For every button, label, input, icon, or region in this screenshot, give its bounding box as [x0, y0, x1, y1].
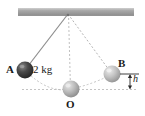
height-arrow-up: [128, 74, 132, 78]
ball-a-highlight: [20, 65, 25, 69]
string-pivot-to-o: [69, 14, 71, 89]
label-ball-a: A: [6, 64, 14, 75]
ceiling-bar: [18, 8, 134, 16]
ball-o: [63, 81, 80, 98]
ball-o-highlight: [65, 84, 70, 88]
label-height-h: h: [133, 74, 138, 84]
ball-a: [17, 62, 34, 79]
pendulum-swing-diagram: A 2 kg B O h: [0, 0, 145, 116]
label-ball-b: B: [118, 58, 125, 69]
pivot-point: [67, 14, 70, 17]
label-mass-2kg: 2 kg: [33, 64, 52, 75]
string-pivot-to-b: [68, 14, 112, 74]
ball-b-highlight: [106, 69, 111, 73]
label-ball-o: O: [66, 99, 75, 110]
height-arrow-down: [128, 86, 132, 90]
string-pivot-to-a: [25, 14, 68, 70]
